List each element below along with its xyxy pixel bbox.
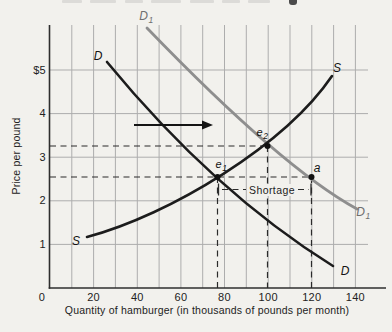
x-tick-20: 20 [87,291,100,303]
x-tick-120: 120 [302,291,321,303]
y-axis-title: Price per pound [10,117,22,194]
label-e2: e2 [257,126,268,138]
x-tick-100: 100 [259,291,278,303]
label-S-top: S [333,61,341,75]
shortage-label: Shortage [247,184,297,196]
y-tick-2: 2 [0,194,46,206]
x-tick-80: 80 [218,291,231,303]
label-D1-bottom: D1 [356,205,369,219]
x-tick-40: 40 [131,291,144,303]
label-D1-top: D1 [139,9,152,23]
label-S-bottom: S [72,234,80,248]
y-tick-1: 1 [0,238,46,250]
y-tick-3: 3 [0,151,46,163]
y-tick-5: $5 [0,64,46,76]
grid [50,25,368,288]
supply-curve-S [87,76,332,237]
y-tick-4: 4 [0,107,46,119]
demand-curve-D1 [147,28,357,209]
x-tick-0: 0 [39,291,45,303]
label-e1: e1 [216,158,227,170]
label-a: a [314,161,321,175]
shift-arrow [134,121,213,130]
point-e2 [265,143,271,149]
x-axis-title: Quantity of hamburger (in thousands of p… [22,304,392,316]
chart-canvas [0,0,392,332]
label-D-top: D [94,49,103,63]
x-tick-60: 60 [175,291,188,303]
label-D-bottom: D [341,264,350,278]
point-e1 [215,174,221,180]
x-tick-140: 140 [346,291,365,303]
textbook-chart-figure: $5 4 3 2 1 0 20 40 60 80 100 120 140 Pri… [0,0,392,332]
